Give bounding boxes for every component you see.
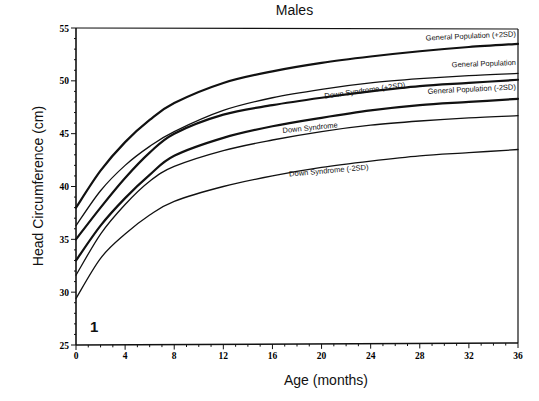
curve-down-syndrome [76,116,518,276]
x-tick-label: 36 [513,351,523,361]
curve-labels: General Population (+2SD)General Populat… [282,29,517,178]
curve-label: General Population [452,58,516,69]
x-tick-label: 28 [415,351,425,361]
axes: 2530354045505504812162024283236 [60,24,524,362]
x-tick-label: 0 [74,351,79,361]
x-tick-label: 16 [268,351,278,361]
top-frame-line [76,28,518,29]
curve-label: Down Syndrome (-2SD) [289,163,370,179]
x-tick-label: 32 [464,351,474,361]
y-tick-label: 30 [60,288,70,298]
y-tick-label: 25 [60,341,70,351]
curve-label: General Population (+2SD) [426,29,517,42]
curve-general-population [76,73,518,225]
y-tick-label: 50 [60,76,70,86]
x-tick-label: 12 [219,351,229,361]
curve-general-population-2sd [76,99,518,261]
line-chart: 2530354045505504812162024283236 General … [0,0,539,401]
x-tick-label: 8 [172,351,177,361]
x-tick-label: 20 [317,351,327,361]
y-tick-label: 55 [60,24,70,34]
x-tick-label: 24 [366,351,376,361]
x-tick-label: 4 [123,351,128,361]
y-tick-label: 35 [60,235,70,245]
y-tick-label: 45 [60,129,70,139]
y-tick-label: 40 [60,182,70,192]
